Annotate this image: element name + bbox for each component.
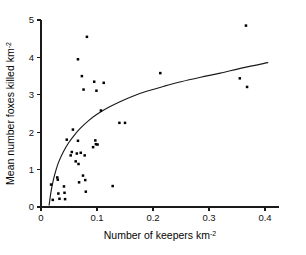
data-point [82, 88, 85, 91]
data-point [82, 174, 85, 177]
y-axis-title: Mean number foxes killed km-2 [4, 42, 16, 185]
data-point [78, 181, 81, 184]
data-point [92, 146, 95, 149]
y-tick-label-3: 3 [29, 89, 34, 100]
data-point [52, 199, 55, 202]
data-point [245, 24, 248, 27]
data-point [96, 143, 99, 146]
x-tick-label-0.3: 0.3 [202, 212, 215, 223]
y-tick-label-5: 5 [29, 14, 34, 25]
data-point [76, 152, 79, 155]
fitted-curve [49, 63, 268, 205]
data-point [69, 154, 72, 157]
data-point [85, 190, 88, 193]
x-tick-label-0.2: 0.2 [146, 212, 159, 223]
data-point [239, 77, 242, 80]
x-axis-title-base: Number of keepers km [104, 229, 210, 241]
data-point [93, 80, 96, 83]
data-point [86, 36, 89, 39]
x-axis-title-superscript: -2 [210, 230, 216, 237]
y-tick-label-1: 1 [29, 164, 34, 175]
data-point [72, 128, 75, 131]
data-point [83, 154, 86, 157]
data-point [159, 72, 162, 75]
data-point [80, 152, 83, 155]
axis-labels-group: Number of keepers km-2Mean number foxes … [4, 42, 216, 241]
scatter-plot: 01234500.10.20.30.4 Number of keepers km… [0, 0, 306, 255]
data-point [95, 89, 98, 92]
data-point [63, 185, 66, 188]
data-point [246, 86, 249, 89]
figure-container: 01234500.10.20.30.4 Number of keepers km… [0, 0, 306, 255]
axes-group: 01234500.10.20.30.4 [29, 14, 279, 223]
data-points-group [50, 24, 249, 201]
y-tick-label-0: 0 [29, 201, 34, 212]
data-point [77, 140, 80, 143]
axis-spines [41, 20, 279, 207]
data-point [71, 151, 74, 154]
data-point [118, 122, 121, 125]
data-point [84, 179, 87, 182]
data-point [124, 122, 127, 125]
data-point [50, 183, 53, 186]
y-tick-label-4: 4 [29, 52, 34, 63]
x-axis-title: Number of keepers km-2 [104, 229, 217, 241]
data-point [64, 198, 67, 201]
data-point [77, 163, 80, 166]
data-point [111, 185, 114, 188]
data-point [66, 138, 69, 141]
x-tick-label-0.1: 0.1 [90, 212, 103, 223]
data-point [94, 139, 97, 142]
y-tick-label-2: 2 [29, 127, 34, 138]
x-tick-label-0: 0 [38, 212, 43, 223]
data-point [58, 198, 61, 201]
data-point [77, 58, 80, 61]
data-point [74, 160, 77, 163]
data-point [63, 192, 66, 195]
y-axis-title-superscript: -2 [5, 42, 12, 48]
data-point [57, 178, 60, 181]
data-point [81, 75, 84, 78]
data-point [57, 192, 60, 195]
fit-curve-group [49, 63, 268, 205]
data-point [100, 109, 103, 112]
data-point [56, 176, 59, 179]
data-point [102, 82, 105, 85]
x-tick-label-0.4: 0.4 [258, 212, 271, 223]
y-axis-title-base: Mean number foxes killed km [4, 48, 16, 185]
